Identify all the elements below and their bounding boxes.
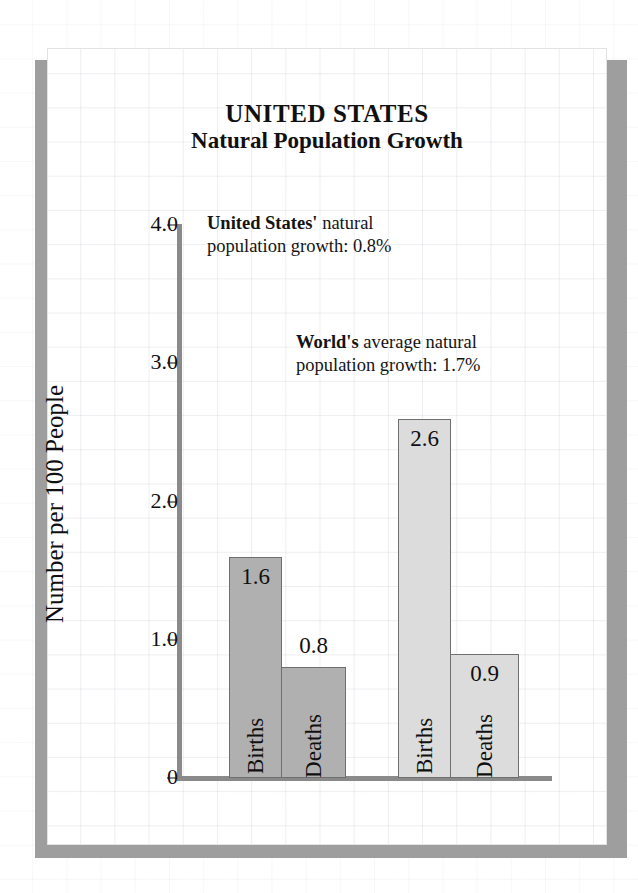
bar-united-states-deaths[interactable]: Deaths	[281, 667, 346, 778]
annotation-world: World's average natural population growt…	[296, 331, 480, 377]
y-axis-tick-label: 0	[118, 764, 178, 790]
annotation-us-line1: United States' natural	[207, 212, 391, 235]
y-axis-tick-label: 4.0	[118, 211, 178, 237]
bar-world-deaths[interactable]: 0.9Deaths	[450, 654, 519, 778]
annotation-united-states: United States' natural population growth…	[207, 212, 391, 258]
annotation-us-rest: natural	[318, 213, 374, 233]
bar-category-label: Deaths	[472, 714, 498, 778]
bar-value-label: 1.6	[230, 564, 281, 590]
bar-world-births[interactable]: 2.6Births	[398, 419, 451, 778]
chart-title-sub: Natural Population Growth	[47, 128, 607, 154]
y-axis-title: Number per 100 People	[41, 339, 69, 669]
chart-title-block: UNITED STATES Natural Population Growth	[47, 100, 607, 154]
bar-category-label: Births	[412, 718, 438, 774]
annotation-us-line2: population growth: 0.8%	[207, 235, 391, 258]
bar-category-wrap: Deaths	[282, 675, 345, 767]
chart-title-main: UNITED STATES	[47, 100, 607, 128]
annotation-world-line1: World's average natural	[296, 331, 480, 354]
annotation-us-lead: United States'	[207, 213, 318, 233]
bar-value-label: 0.8	[281, 633, 346, 659]
bar-united-states-births[interactable]: 1.6Births	[229, 557, 282, 778]
bar-category-wrap: Births	[230, 675, 281, 767]
annotation-world-line2: population growth: 1.7%	[296, 354, 480, 377]
bar-category-label: Births	[243, 718, 269, 774]
y-axis-tick-label: 1.0	[118, 626, 178, 652]
annotation-world-lead: World's	[296, 332, 359, 352]
bar-category-label: Deaths	[301, 714, 327, 778]
y-axis-tick-label: 3.0	[118, 349, 178, 375]
bar-category-wrap: Births	[399, 675, 450, 767]
bar-value-label: 2.6	[399, 426, 450, 452]
annotation-world-rest: average natural	[359, 332, 477, 352]
bar-category-wrap: Deaths	[451, 675, 518, 767]
y-axis-tick-label: 2.0	[118, 488, 178, 514]
chart-page: UNITED STATES Natural Population Growth …	[0, 0, 638, 893]
